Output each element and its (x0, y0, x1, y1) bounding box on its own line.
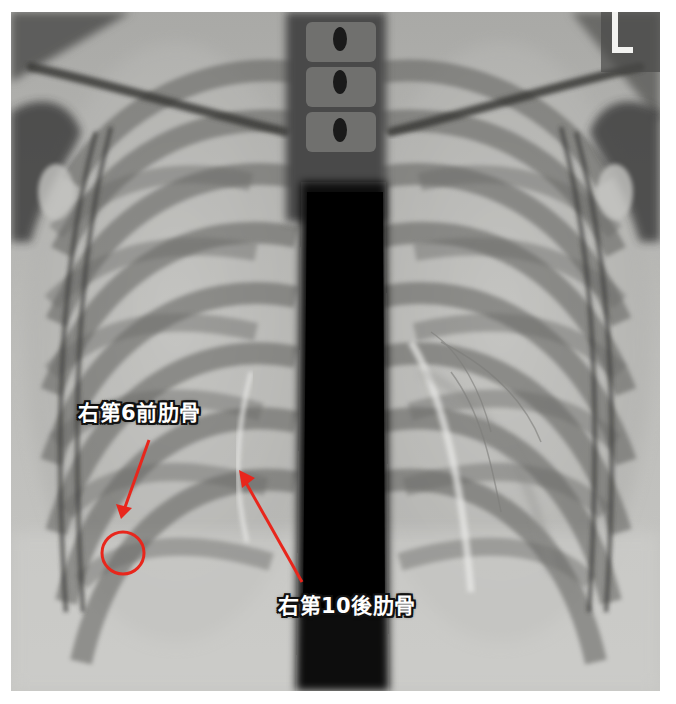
side-marker-L (601, 12, 660, 72)
label-right-6th-anterior-rib: 右第6前肋骨 (78, 403, 201, 424)
chest-xray-figure (11, 12, 660, 691)
chest-xray-image (11, 12, 660, 691)
label-right-10th-posterior-rib: 右第10後肋骨 (278, 596, 416, 617)
cervical-vertebrae (306, 22, 376, 152)
